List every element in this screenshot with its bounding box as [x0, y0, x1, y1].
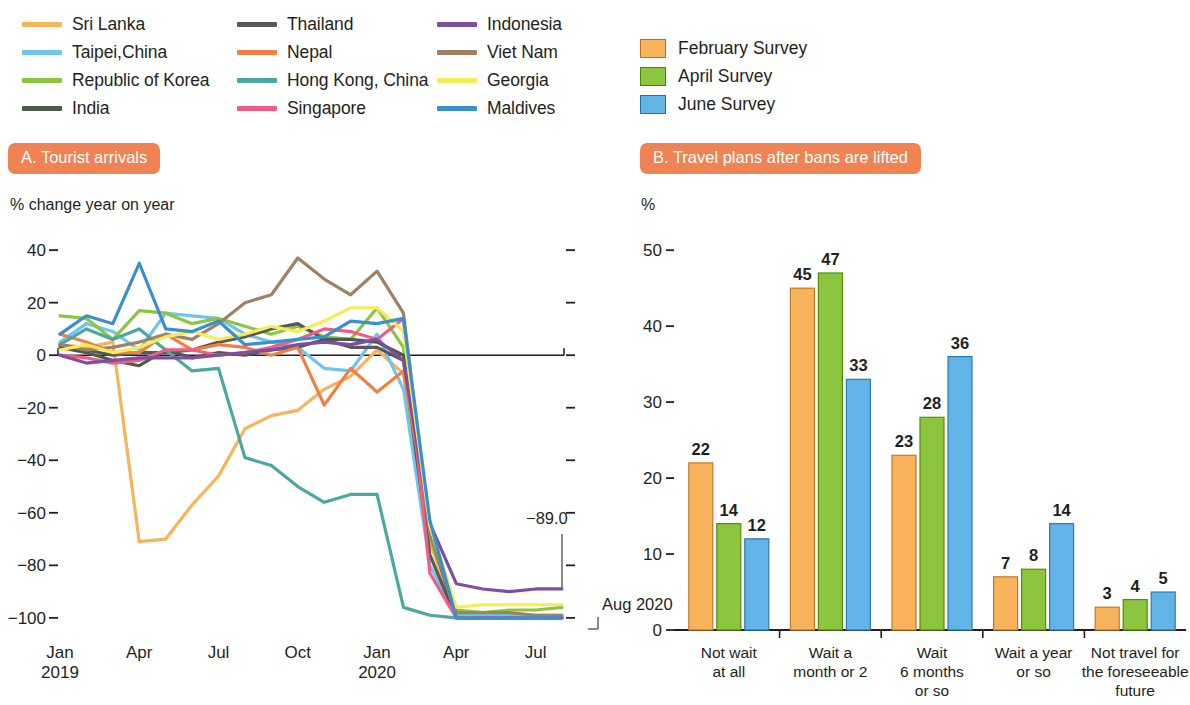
- bar-value-label: 8: [1029, 546, 1038, 565]
- legend-item-label: Indonesia: [487, 14, 562, 35]
- x-axis-tick-line: Apr: [126, 643, 152, 663]
- category-label: Not travel for the foreseeable future: [1077, 644, 1190, 701]
- legend-item-georgia[interactable]: Georgia: [437, 70, 612, 91]
- y-axis-tick-label: 20: [0, 294, 46, 314]
- legend-item-label: Georgia: [487, 70, 549, 91]
- legend-color-swatch: [437, 50, 477, 55]
- legend-item-label: Thailand: [287, 14, 353, 35]
- bar-value-label: 3: [1103, 584, 1112, 603]
- y-axis-tick-label: −40: [0, 451, 46, 471]
- x-axis-tick-line: Jul: [525, 643, 547, 663]
- legend-item-label: Viet Nam: [487, 42, 558, 63]
- legend-color-swatch: [437, 22, 477, 27]
- legend-item-label: Nepal: [287, 42, 332, 63]
- line-chart-legend: Sri LankaThailandIndonesiaTaipei,ChinaNe…: [22, 10, 612, 122]
- legend-item-label: India: [72, 98, 109, 119]
- legend-item-maldives[interactable]: Maldives: [437, 98, 612, 119]
- legend-item-sri-lanka[interactable]: Sri Lanka: [22, 14, 237, 35]
- y-axis-tick-label: 30: [630, 393, 662, 413]
- y-axis-tick-label: −80: [0, 556, 46, 576]
- y-axis-tick-label: 50: [630, 241, 662, 261]
- legend-color-swatch: [237, 78, 277, 83]
- bar-value-label: 22: [692, 440, 710, 459]
- annotation-value: −89.0: [526, 509, 568, 528]
- bar-value-label: 12: [748, 516, 766, 535]
- panel-b-axis-unit: %: [641, 196, 655, 214]
- bar-legend-color-swatch: [640, 67, 666, 86]
- legend-item-label: Taipei,China: [72, 42, 167, 63]
- legend-item-hong-kong-china[interactable]: Hong Kong, China: [237, 70, 437, 91]
- y-axis-tick-label: 40: [0, 241, 46, 261]
- legend-color-swatch: [437, 106, 477, 111]
- legend-item-thailand[interactable]: Thailand: [237, 14, 437, 35]
- x-axis-tick-label: Jan2019: [41, 643, 79, 682]
- bar-value-label: 23: [895, 432, 913, 451]
- y-axis-tick-label: −20: [0, 399, 46, 419]
- legend-item-label: Sri Lanka: [72, 14, 145, 35]
- legend-color-swatch: [22, 78, 62, 83]
- line-chart-svg: [0, 225, 620, 705]
- panel-b-bar-chart: 01020304050221412Not wait at all454733Wa…: [630, 225, 1190, 705]
- legend-item-indonesia[interactable]: Indonesia: [437, 14, 612, 35]
- panel-a-line-chart: 40200−20−40−60−80−100Jan2019AprJulOctJan…: [0, 225, 620, 705]
- y-axis-tick-label: 10: [630, 545, 662, 565]
- x-axis-tick-label: Jul: [525, 643, 547, 663]
- legend-item-viet-nam[interactable]: Viet Nam: [437, 42, 612, 63]
- figure-root: Sri LankaThailandIndonesiaTaipei,ChinaNe…: [0, 0, 1190, 705]
- x-axis-tick-line: 2019: [41, 663, 79, 683]
- bar-legend-item-june-survey[interactable]: June Survey: [640, 94, 807, 115]
- x-axis-tick-line: Apr: [443, 643, 469, 663]
- legend-item-label: Republic of Korea: [72, 70, 209, 91]
- bar-value-label: 7: [1001, 554, 1010, 573]
- x-axis-tick-line: Jan: [358, 643, 396, 663]
- x-axis-tick-label: Oct: [285, 643, 311, 663]
- x-axis-tick-label: Apr: [126, 643, 152, 663]
- x-axis-tick-line: Oct: [285, 643, 311, 663]
- bar-legend-item-label: February Survey: [678, 38, 807, 59]
- bar-value-label: 33: [849, 356, 867, 375]
- x-axis-tick-label: Jan2020: [358, 643, 396, 682]
- y-axis-tick-label: 0: [630, 621, 662, 641]
- legend-item-republic-of-korea[interactable]: Republic of Korea: [22, 70, 237, 91]
- category-label: Wait a month or 2: [773, 644, 889, 682]
- bar-chart-legend: February SurveyApril SurveyJune Survey: [640, 38, 807, 115]
- bar-legend-item-label: April Survey: [678, 66, 772, 87]
- bar-value-label: 14: [720, 501, 738, 520]
- bar-chart-svg: [630, 225, 1190, 705]
- legend-item-singapore[interactable]: Singapore: [237, 98, 437, 119]
- y-axis-tick-label: 20: [630, 469, 662, 489]
- legend-color-swatch: [22, 22, 62, 27]
- legend-color-swatch: [237, 106, 277, 111]
- category-label: Not wait at all: [671, 644, 787, 682]
- y-axis-tick-label: −60: [0, 504, 46, 524]
- bar-legend-item-label: June Survey: [678, 94, 775, 115]
- bar-value-label: 4: [1131, 577, 1140, 596]
- panel-b-title: B. Travel plans after bans are lifted: [640, 143, 921, 174]
- legend-item-nepal[interactable]: Nepal: [237, 42, 437, 63]
- legend-color-swatch: [22, 50, 62, 55]
- bar-value-label: 47: [821, 250, 839, 269]
- bar-legend-color-swatch: [640, 39, 666, 58]
- y-axis-tick-label: 40: [630, 317, 662, 337]
- bar-legend-item-april-survey[interactable]: April Survey: [640, 66, 807, 87]
- legend-item-taipei-china[interactable]: Taipei,China: [22, 42, 237, 63]
- panel-a-axis-unit: % change year on year: [10, 196, 175, 214]
- bar-legend-item-february-survey[interactable]: February Survey: [640, 38, 807, 59]
- panel-a-title: A. Tourist arrivals: [8, 143, 160, 174]
- x-axis-tick-label: Apr: [443, 643, 469, 663]
- legend-item-india[interactable]: India: [22, 98, 237, 119]
- y-axis-tick-label: −100: [0, 609, 46, 629]
- x-axis-tick-label: Jul: [208, 643, 230, 663]
- bar-value-label: 14: [1052, 501, 1070, 520]
- legend-item-label: Maldives: [487, 98, 555, 119]
- legend-item-label: Hong Kong, China: [287, 70, 428, 91]
- bar-value-label: 36: [951, 334, 969, 353]
- bar-value-label: 5: [1159, 569, 1168, 588]
- legend-color-swatch: [237, 50, 277, 55]
- bar-legend-color-swatch: [640, 95, 666, 114]
- category-label: Wait 6 months or so: [874, 644, 990, 701]
- x-axis-tick-line: Jan: [41, 643, 79, 663]
- legend-color-swatch: [237, 22, 277, 27]
- legend-color-swatch: [437, 78, 477, 83]
- legend-color-swatch: [22, 106, 62, 111]
